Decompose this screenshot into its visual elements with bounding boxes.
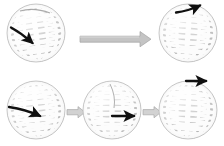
- sphere-bottom-middle: [83, 81, 141, 139]
- diagram-canvas: [0, 0, 224, 146]
- sphere-sequence-figure: [0, 0, 224, 146]
